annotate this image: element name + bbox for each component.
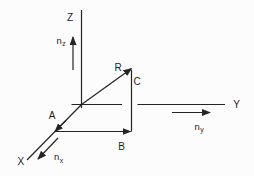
label-X: X xyxy=(17,156,24,167)
figure-canvas: ZYXRABCnznxny xyxy=(0,0,254,176)
label-nx: nx xyxy=(54,151,64,164)
label-nz-subscript: z xyxy=(62,40,66,47)
label-A: A xyxy=(49,110,56,121)
label-ny: ny xyxy=(195,121,205,135)
label-nx-subscript: x xyxy=(60,157,64,164)
vector-R xyxy=(82,69,132,105)
label-Y: Y xyxy=(233,99,240,110)
figure-content: ZYXRABCnznxny xyxy=(17,10,240,167)
label-Z: Z xyxy=(67,12,73,23)
label-nz: nz xyxy=(57,35,67,48)
label-R: R xyxy=(114,62,121,73)
label-C: C xyxy=(133,76,140,87)
vector-decomposition-figure: ZYXRABCnznxny xyxy=(0,0,254,176)
label-ny-subscript: y xyxy=(200,126,204,134)
vector-A-arrowhead xyxy=(55,120,66,131)
label-B: B xyxy=(118,141,125,152)
